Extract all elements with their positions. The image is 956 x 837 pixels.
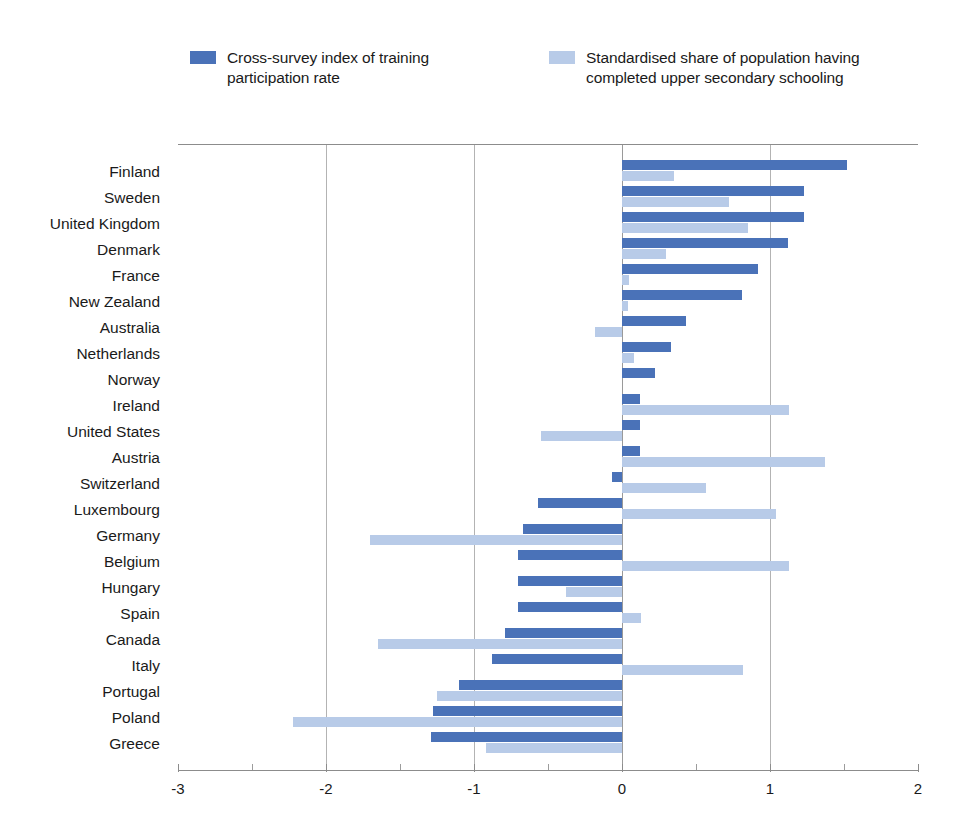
bar-schooling: [486, 743, 622, 753]
category-label: Canada: [0, 627, 160, 653]
minor-tick: [696, 764, 697, 770]
category-label: Australia: [0, 315, 160, 341]
x-tick-label: -2: [319, 780, 332, 797]
bar-training: [622, 186, 804, 196]
bar-row: Italy: [178, 653, 918, 679]
category-label: Denmark: [0, 237, 160, 263]
bar-training: [622, 238, 788, 248]
bar-row: Portugal: [178, 679, 918, 705]
category-label: Spain: [0, 601, 160, 627]
tick--2: [326, 764, 327, 772]
bar-schooling: [437, 691, 622, 701]
bar-training: [538, 498, 622, 508]
category-label: Belgium: [0, 549, 160, 575]
tick-2: [918, 764, 919, 772]
category-label: United States: [0, 419, 160, 445]
minor-tick: [400, 764, 401, 770]
bar-chart: -3-2-1012 FinlandSwedenUnited KingdomDen…: [0, 0, 956, 837]
category-label: Finland: [0, 159, 160, 185]
bar-row: Ireland: [178, 393, 918, 419]
bar-row: Spain: [178, 601, 918, 627]
tick--3: [178, 764, 179, 772]
bar-row: Luxembourg: [178, 497, 918, 523]
bar-schooling: [622, 665, 743, 675]
bar-training: [622, 290, 742, 300]
category-label: Switzerland: [0, 471, 160, 497]
bar-training: [622, 394, 640, 404]
bar-row: Netherlands: [178, 341, 918, 367]
tick--1: [474, 764, 475, 772]
category-label: Sweden: [0, 185, 160, 211]
category-label: Austria: [0, 445, 160, 471]
category-label: Germany: [0, 523, 160, 549]
bar-schooling: [566, 587, 622, 597]
bar-training: [622, 420, 640, 430]
plot-area: -3-2-1012 FinlandSwedenUnited KingdomDen…: [178, 144, 918, 771]
bar-row: United Kingdom: [178, 211, 918, 237]
bar-schooling: [622, 301, 628, 311]
x-tick-label: 2: [914, 780, 922, 797]
bar-row: Canada: [178, 627, 918, 653]
bar-schooling: [622, 353, 634, 363]
category-label: New Zealand: [0, 289, 160, 315]
bar-row: Germany: [178, 523, 918, 549]
bar-schooling: [622, 223, 748, 233]
bar-schooling: [622, 457, 825, 467]
bar-training: [622, 160, 847, 170]
tick-1: [770, 764, 771, 772]
bar-schooling: [622, 275, 629, 285]
bar-row: United States: [178, 419, 918, 445]
bar-training: [433, 706, 622, 716]
bar-training: [622, 368, 655, 378]
bar-schooling: [293, 717, 622, 727]
bar-schooling: [622, 613, 641, 623]
x-tick-label: -1: [467, 780, 480, 797]
bar-schooling: [370, 535, 622, 545]
bar-training: [492, 654, 622, 664]
bar-row: Austria: [178, 445, 918, 471]
category-label: Portugal: [0, 679, 160, 705]
bar-schooling: [622, 171, 674, 181]
top-axis-line: [178, 144, 918, 145]
category-label: United Kingdom: [0, 211, 160, 237]
bar-row: Hungary: [178, 575, 918, 601]
category-label: Ireland: [0, 393, 160, 419]
bar-training: [459, 680, 622, 690]
category-label: Netherlands: [0, 341, 160, 367]
bar-training: [518, 602, 622, 612]
bar-training: [622, 316, 686, 326]
bar-schooling: [622, 249, 666, 259]
bar-training: [431, 732, 622, 742]
minor-tick: [548, 764, 549, 770]
bar-training: [622, 342, 671, 352]
bottom-axis-line: [178, 770, 918, 771]
minor-tick: [844, 764, 845, 770]
bar-row: Belgium: [178, 549, 918, 575]
bar-schooling: [622, 197, 729, 207]
bar-row: New Zealand: [178, 289, 918, 315]
category-label: Italy: [0, 653, 160, 679]
bar-schooling: [622, 561, 789, 571]
bar-training: [505, 628, 622, 638]
category-label: France: [0, 263, 160, 289]
bar-training: [622, 446, 640, 456]
bar-training: [622, 264, 758, 274]
bar-row: Denmark: [178, 237, 918, 263]
bar-row: Australia: [178, 315, 918, 341]
bar-schooling: [541, 431, 622, 441]
x-tick-label: -3: [171, 780, 184, 797]
bar-row: Poland: [178, 705, 918, 731]
bar-schooling: [622, 483, 706, 493]
category-label: Luxembourg: [0, 497, 160, 523]
tick-0: [622, 764, 623, 772]
category-label: Norway: [0, 367, 160, 393]
x-tick-label: 1: [766, 780, 774, 797]
bar-training: [622, 212, 804, 222]
bar-row: Greece: [178, 731, 918, 757]
x-tick-label: 0: [618, 780, 626, 797]
bar-row: Sweden: [178, 185, 918, 211]
bar-schooling: [622, 405, 789, 415]
category-label: Hungary: [0, 575, 160, 601]
bar-schooling: [622, 509, 776, 519]
category-label: Poland: [0, 705, 160, 731]
